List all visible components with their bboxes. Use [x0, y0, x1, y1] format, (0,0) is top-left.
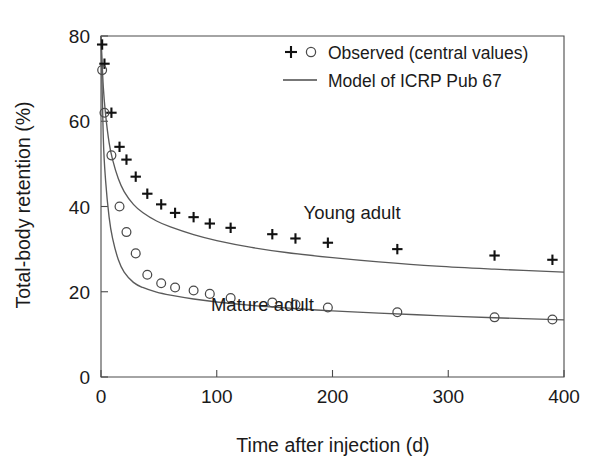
y-tick-label-0: 0	[79, 367, 90, 388]
y-tick-label-60: 60	[69, 111, 90, 132]
young-adult-label: Young adult	[304, 202, 401, 223]
chart-background	[0, 0, 606, 474]
x-tick-label-200: 200	[317, 386, 349, 407]
x-tick-label-0: 0	[96, 386, 107, 407]
x-tick-label-400: 400	[548, 386, 580, 407]
y-axis-title: Total-body retention (%)	[12, 101, 34, 308]
legend-label-model: Model of ICRP Pub 67	[328, 71, 502, 91]
chart-figure: 020406080 0100200300400 Total-body reten…	[0, 0, 606, 474]
retention-chart: 020406080 0100200300400 Total-body reten…	[0, 0, 606, 474]
legend-label-observed: Observed (central values)	[328, 43, 528, 63]
x-tick-label-300: 300	[432, 386, 464, 407]
mature-adult-label: Mature adult	[211, 294, 314, 315]
y-tick-label-20: 20	[69, 282, 90, 303]
x-tick-label-100: 100	[201, 386, 233, 407]
y-tick-label-80: 80	[69, 26, 90, 47]
y-tick-label-40: 40	[69, 197, 90, 218]
x-axis-title: Time after injection (d)	[236, 434, 429, 456]
